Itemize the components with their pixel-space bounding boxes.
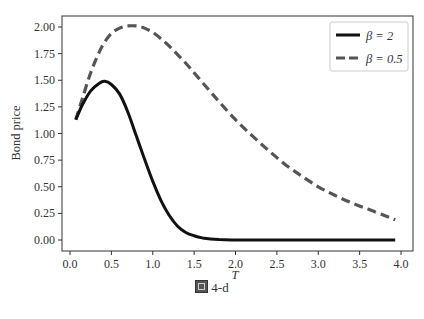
legend-label-beta-2: β = 2	[365, 29, 393, 43]
x-tick-label: 1.0	[145, 257, 160, 271]
y-tick-label: 1.50	[34, 73, 55, 87]
figure-icon	[195, 280, 208, 293]
y-tick-label: 0.50	[34, 180, 55, 194]
x-tick-label: 0.0	[63, 257, 78, 271]
y-tick-label: 2.00	[34, 20, 55, 34]
bond-price-chart: 0.000.250.500.751.001.251.501.752.00 0.0…	[0, 0, 424, 319]
y-axis-label: Bond price	[9, 105, 23, 161]
series-line-beta-2	[76, 81, 395, 240]
x-tick-label: 0.5	[104, 257, 119, 271]
figure-caption: 4-d	[0, 280, 424, 296]
y-tick-label: 0.75	[34, 153, 55, 167]
x-tick-label: 3.0	[311, 257, 326, 271]
legend-label-beta-0-5: β = 0.5	[365, 52, 403, 66]
caption-label: 4-d	[211, 280, 228, 295]
y-tick-label: 1.25	[34, 100, 55, 114]
x-tick-label: 4.0	[394, 257, 409, 271]
x-tick-label: 2.5	[269, 257, 284, 271]
x-tick-label: 1.5	[187, 257, 202, 271]
y-axis-ticks: 0.000.250.500.751.001.251.501.752.00	[34, 20, 62, 247]
legend: β = 2 β = 0.5	[330, 22, 408, 71]
y-tick-label: 1.75	[34, 47, 55, 61]
y-tick-label: 0.25	[34, 206, 55, 220]
y-tick-label: 0.00	[34, 233, 55, 247]
y-tick-label: 1.00	[34, 127, 55, 141]
x-tick-label: 3.5	[352, 257, 367, 271]
